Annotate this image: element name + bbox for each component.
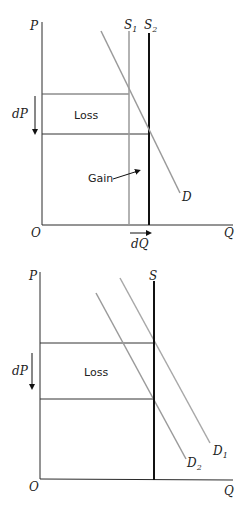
bottom-loss-label: Loss	[84, 366, 108, 379]
bottom-quantity-axis	[40, 479, 233, 480]
bottom-p-axis-label: P	[28, 269, 38, 283]
top-origin-label: O	[31, 226, 41, 240]
s-label: S	[149, 269, 157, 283]
d2-label: D2	[186, 456, 202, 472]
top-loss-label: Loss	[74, 109, 98, 122]
top-q-axis-label: Q	[224, 226, 234, 240]
bottom-origin-label: O	[29, 480, 39, 494]
gain-label: Gain	[88, 172, 113, 185]
demand-curve-d	[101, 31, 180, 193]
demand-curve-d1	[120, 278, 210, 443]
top-p-axis-label: P	[29, 19, 39, 33]
gain-pointer-arrow	[113, 171, 138, 179]
d1-label: D1	[212, 444, 228, 460]
demand-d-label: D	[181, 190, 192, 204]
bottom-dp-label: dP	[12, 364, 29, 378]
top-diagram: P S1 S2 dP Loss Gain D O Q dQ	[12, 18, 234, 251]
bottom-diagram: P S dP Loss D1 D2 O Q	[12, 269, 234, 498]
bottom-q-axis-label: Q	[224, 484, 234, 498]
diagram-canvas: P S1 S2 dP Loss Gain D O Q dQ P S dP Los…	[0, 0, 245, 509]
dq-label: dQ	[131, 237, 149, 251]
top-dp-label: dP	[12, 107, 29, 121]
s2-label: S2	[144, 18, 157, 34]
s1-label: S1	[124, 18, 137, 34]
